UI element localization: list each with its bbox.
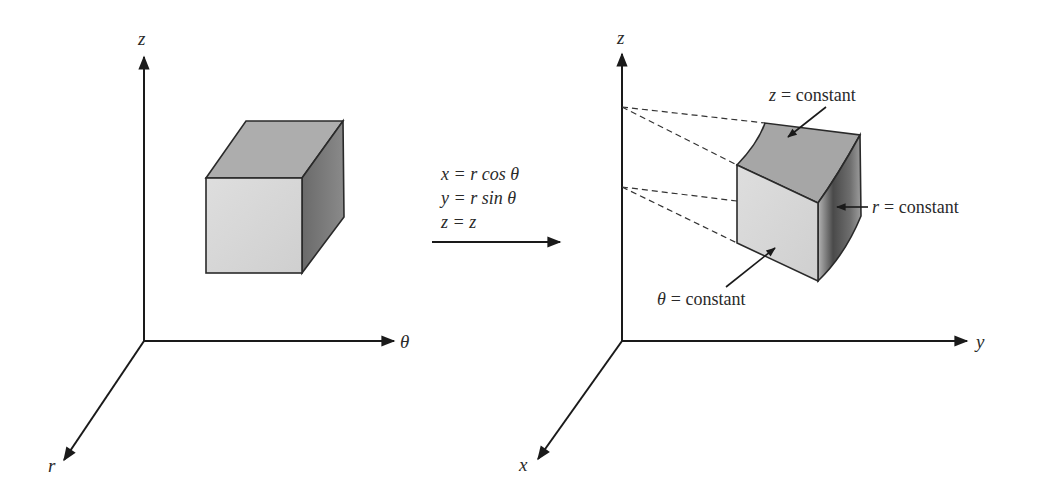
equation-z: z = z	[440, 212, 476, 232]
z-constant-label: z= constant	[768, 85, 856, 105]
theta-constant-label: θ= constant	[657, 289, 745, 309]
left-z-label: z	[137, 28, 146, 49]
transform-equations: x = r cos θ y = r sin θ z = z	[432, 164, 560, 242]
cylindrical-coordinates-figure: z θ r x = r cos θ y = r sin θ z = z z y …	[0, 0, 1038, 498]
left-r-axis	[64, 341, 144, 460]
theta-constant-pointer	[726, 248, 775, 287]
left-r-label: r	[48, 455, 56, 476]
equation-y: y = r sin θ	[439, 188, 516, 208]
box-front-face	[206, 178, 302, 273]
cylindrical-wedge	[737, 123, 861, 281]
right-x-axis	[538, 341, 622, 459]
right-axes	[538, 54, 967, 459]
right-y-label: y	[974, 331, 985, 352]
equation-x: x = r cos θ	[440, 164, 519, 184]
r-constant-label: r= constant	[872, 197, 959, 217]
rectangular-box	[206, 121, 344, 273]
right-x-label: x	[518, 454, 528, 475]
right-z-label: z	[616, 27, 625, 48]
left-theta-label: θ	[400, 331, 409, 352]
